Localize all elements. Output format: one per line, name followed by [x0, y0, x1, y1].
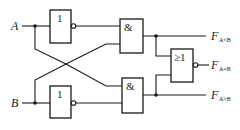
wire-a-cross: [35, 26, 122, 86]
and-gate-top-symbol: &: [124, 21, 133, 33]
comparator-circuit: 1 1 & & ≥1 A B F A<B F A=B F A>B: [0, 0, 240, 130]
not-gate-b-symbol: 1: [57, 88, 63, 100]
wire-and-bottom-to-nor: [156, 75, 171, 95]
output-label-f-a-equal-b: F: [210, 58, 219, 72]
and-gate-bottom-symbol: &: [126, 80, 135, 92]
not-a-bubble: [71, 24, 76, 29]
not-b-bubble: [71, 101, 76, 106]
wire-b-cross: [35, 44, 120, 103]
not-gate-a-symbol: 1: [57, 12, 63, 24]
nor-gate-symbol: ≥1: [174, 51, 186, 63]
output-label-f-a-less-b: F: [210, 29, 219, 43]
output-label-f-a-greater-b: F: [210, 88, 219, 102]
nor-bubble: [193, 63, 198, 68]
input-label-b: B: [11, 96, 19, 110]
input-label-a: A: [10, 19, 19, 33]
output-subscript-a-less-b: A<B: [219, 37, 231, 43]
wire-and-top-to-nor: [156, 36, 171, 56]
output-subscript-a-equal-b: A=B: [219, 66, 231, 72]
output-subscript-a-greater-b: A>B: [219, 96, 231, 102]
